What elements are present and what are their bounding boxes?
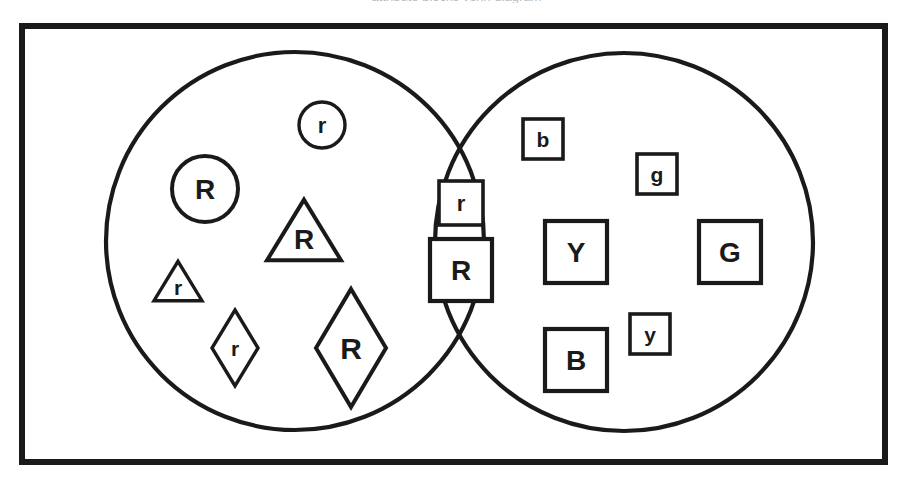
left-triangle-big-R: R: [267, 200, 341, 261]
diamond-outline: [316, 289, 386, 407]
triangle-outline: [154, 261, 202, 300]
circle-outline: [172, 156, 238, 222]
triangle-outline: [267, 200, 341, 261]
mid-square-big-R: R: [430, 239, 492, 301]
right-square-big-B: B: [545, 329, 607, 391]
right-square-small-g: g: [637, 154, 677, 194]
diamond-outline: [212, 310, 258, 386]
square-outline: [699, 221, 761, 283]
mid-square-small-r: r: [439, 181, 483, 225]
square-outline: [430, 239, 492, 301]
left-diamond-small-r: r: [212, 310, 258, 386]
circle-outline: [299, 102, 345, 148]
right-square-big-Y: Y: [545, 221, 607, 283]
left-circle-big-R: R: [172, 156, 238, 222]
right-square-small-y: y: [630, 314, 670, 354]
square-outline: [545, 221, 607, 283]
square-outline: [439, 181, 483, 225]
right-square-small-b: b: [523, 119, 563, 159]
left-circle-small-r: r: [299, 102, 345, 148]
square-outline: [523, 119, 563, 159]
right-square-big-G: G: [699, 221, 761, 283]
left-triangle-small-r: r: [154, 261, 202, 300]
square-outline: [637, 154, 677, 194]
square-outline: [630, 314, 670, 354]
venn-diagram-page: attribute blocks venn diagram rRRrrRrRbg…: [0, 0, 913, 483]
square-outline: [545, 329, 607, 391]
left-diamond-big-R: R: [316, 289, 386, 407]
venn-diagram-canvas: rRRrrRrRbgYGyB: [0, 0, 913, 483]
